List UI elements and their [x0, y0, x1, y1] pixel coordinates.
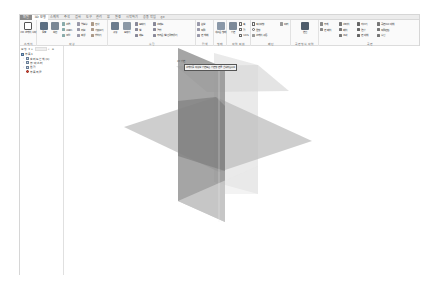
group-freeform: 새로운 형태 형태 [214, 20, 227, 46]
direct-edit-icon [377, 28, 380, 31]
plane-button[interactable]: 평면 [227, 22, 239, 38]
thicken-offset-button[interactable]: 두꺼운 쉘/간격띄우기 [153, 33, 177, 37]
group-surface: 두께 면 패치 스티치 패치 조각 자르기 연장 면 대체 곡면으로 대체 직접… [319, 20, 421, 46]
coil-button[interactable]: 코일 [62, 33, 72, 37]
rectangular-pattern-icon [252, 22, 255, 25]
stitch-icon [339, 22, 342, 25]
loft-button[interactable]: 로프트 [62, 28, 72, 32]
browser-tree: 부품1 + 솔리드 본체(0) + 뷰: 마스터 + 원점 부품의 끝 [20, 52, 63, 74]
sketch-icon [24, 22, 32, 30]
tab-3d-model[interactable]: 3D 모형 [32, 15, 48, 20]
create-column-1: 스윕 로프트 코일 [62, 22, 72, 37]
surface-column-2: 스티치 패치 조각 [339, 22, 349, 37]
revolve-icon [51, 22, 59, 30]
mirror-button[interactable]: 미러 [280, 22, 288, 26]
surface-column-3: 자르기 연장 면 대체 [357, 22, 368, 37]
tab-annotate[interactable]: 주석 [62, 15, 73, 20]
origin-folder-icon [26, 66, 29, 69]
graphics-viewport[interactable]: XY 평면 스케치를 작성할 평면 또는 평면형 면을 선택하십시오 [64, 46, 421, 275]
draft-icon [135, 34, 138, 37]
repair-icon [377, 34, 380, 37]
tab-environments[interactable]: 환경 [113, 15, 124, 20]
start-2d-sketch-button[interactable]: 2D 스케치 시작 [22, 22, 34, 38]
thicken-button[interactable]: 두께 [320, 22, 331, 26]
ribbon-panel: 2D 스케치 시작 스케치 돌출 회전 스윕 로프트 코일 엠보싱 리브 파생 [20, 20, 419, 46]
tab-tools[interactable]: 도구 [83, 15, 94, 20]
point-button[interactable]: 점 [239, 28, 249, 32]
draft-button[interactable]: 제도 [135, 33, 145, 37]
loft-icon [62, 28, 65, 31]
search-icon[interactable]: ⌕ [48, 47, 50, 51]
replace-face-icon [357, 34, 360, 37]
circular-pattern-button[interactable]: 원형 [252, 28, 267, 32]
origin-planes-graphic[interactable] [64, 46, 421, 275]
sweep-button[interactable]: 스윕 [62, 22, 72, 26]
rib-icon [77, 28, 80, 31]
trim-icon [357, 22, 360, 25]
revolve-button[interactable]: 회전 [49, 22, 61, 38]
tab-get-started[interactable]: 시작하기 [123, 15, 140, 20]
derive-button[interactable]: 파생 [77, 33, 87, 37]
tab-manage[interactable]: 관리 [94, 15, 105, 20]
surface-column-4: 곡면으로 대체 직접편집 수정 [377, 22, 394, 37]
browser-add-button[interactable]: ▾ + [29, 47, 34, 51]
direct-button[interactable]: 직접 [197, 28, 208, 32]
thread-icon [153, 22, 156, 25]
hole-button[interactable]: 구멍 [109, 22, 121, 38]
menu-icon[interactable]: ≡ [52, 47, 54, 51]
sculpt-button[interactable]: 조각 [339, 33, 349, 37]
repair-button[interactable]: 수정 [377, 33, 394, 37]
tab-view[interactable]: 뷰 [105, 15, 113, 20]
split-button[interactable]: 분할 [197, 22, 208, 26]
fillet-icon [123, 22, 131, 30]
group-create: 돌출 회전 스윕 로프트 코일 엠보싱 리브 파생 전사 가져오기 합치기 작성 [37, 20, 108, 46]
tab-collaborate[interactable]: 공동 작업 [140, 15, 158, 20]
sketch-driven-pattern-button[interactable]: 스케치 구동 [252, 33, 267, 37]
stitch-button[interactable]: 스티치 [339, 22, 349, 26]
plane-label: XY 평면 [177, 59, 185, 63]
group-explore: 분할 직접 면 삭제 탐색 [196, 20, 214, 46]
rib-button[interactable]: 리브 [77, 28, 87, 32]
direct-edit-button[interactable]: 직접편집 [377, 28, 394, 32]
group-work-features: 평면 축 점 UCS 작업 피쳐 [227, 20, 251, 46]
pattern-column-2: 미러 [280, 22, 288, 26]
patch-button[interactable]: 패치 [339, 28, 349, 32]
convert-icon [301, 22, 309, 30]
import-button[interactable]: 가져오기 [91, 28, 103, 32]
end-of-part-icon [26, 70, 29, 73]
browser-search-input[interactable] [35, 47, 47, 51]
decal-button[interactable]: 전사 [91, 22, 103, 26]
tab-inspect[interactable]: 검사 [73, 15, 84, 20]
tree-node-end-of-part[interactable]: 부품의 끝 [21, 70, 63, 74]
folder-icon [26, 57, 29, 60]
tab-sketch[interactable]: 스케치 [48, 15, 62, 20]
fillet-button[interactable]: 모깎기 [121, 22, 133, 38]
new-freeform-button[interactable]: 새로운 형태 [215, 22, 227, 38]
delete-face-icon [197, 34, 200, 37]
tab-extra-menu[interactable]: ◎▾ [158, 15, 167, 20]
emboss-button[interactable]: 엠보싱 [77, 22, 87, 26]
combine-modify-icon [153, 28, 156, 31]
chamfer-button[interactable]: 모따기 [135, 22, 145, 26]
shell-button[interactable]: 쉘 [135, 28, 145, 32]
convert-button[interactable]: 변환 [299, 22, 311, 38]
extend-button[interactable]: 연장 [357, 28, 368, 32]
replace-face-button[interactable]: 면 대체 [357, 33, 368, 37]
thread-button[interactable]: 스레드 [153, 22, 177, 26]
delete-face-button[interactable]: 면 삭제 [197, 33, 208, 37]
tab-file[interactable]: 파일 [20, 15, 32, 20]
combine-modify-button[interactable]: 결합 [153, 28, 177, 32]
modify-column-2: 스레드 결합 두꺼운 쉘/간격띄우기 [153, 22, 177, 37]
rectangular-pattern-button[interactable]: 직사각형 [252, 22, 267, 26]
extrude-icon [40, 22, 48, 30]
axis-button[interactable]: 축 [239, 22, 249, 26]
extend-icon [357, 28, 360, 31]
group-pattern: 직사각형 원형 스케치 구동 미러 패턴 [251, 20, 291, 46]
trim-button[interactable]: 자르기 [357, 22, 368, 26]
replace-with-surface-button[interactable]: 곡면으로 대체 [377, 22, 394, 26]
patch-icon [339, 28, 342, 31]
chamfer-icon [135, 22, 138, 25]
combine-button[interactable]: 합치기 [91, 33, 103, 37]
ucs-button[interactable]: UCS [239, 33, 249, 37]
face-patch-button[interactable]: 면 패치 [320, 28, 331, 32]
